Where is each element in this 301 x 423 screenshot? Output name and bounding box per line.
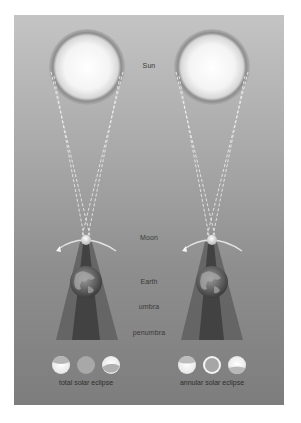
total-eclipse-caption: total solar eclipse [41,379,131,386]
sun-icon [49,29,125,105]
annular-eclipse-caption: annular solar eclipse [167,379,257,386]
earth-label: Earth [119,278,179,285]
annular-eclipse-phases [178,356,246,374]
phase-disc-1 [52,356,70,374]
phase-disc-1 [178,356,196,374]
phase-disc-3 [228,356,246,374]
sun-icon [174,29,250,105]
phase-disc-3 [102,356,120,374]
phase-disc-2-ring [203,356,221,374]
annular-eclipse-group [174,29,250,374]
umbra-label: umbra [119,303,179,310]
moon-icon [207,235,217,245]
total-eclipse-group [49,29,125,374]
earth-icon [196,266,228,298]
penumbra-label: penumbra [119,329,179,336]
total-eclipse-phases [52,356,120,374]
moon-icon [81,235,91,245]
phase-disc-2 [77,356,95,374]
earth-icon [70,266,102,298]
sun-label: Sun [119,62,179,69]
moon-label: Moon [119,234,179,241]
